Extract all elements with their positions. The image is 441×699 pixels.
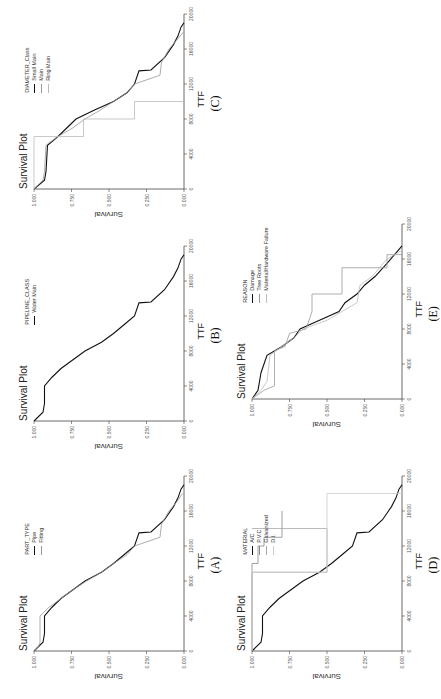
x-tick-label: 0 [188,419,194,422]
survival-plot-panel-a: 0400080001200016000200000.0000.2500.5000… [34,476,184,651]
legend-item: Galvanized [263,515,270,555]
x-tick-label: 12000 [188,77,194,91]
x-tick-label: 20000 [406,217,412,231]
panel-label: (E) [426,306,441,321]
survival-curve-tree-roots [252,255,402,399]
axes [34,476,184,651]
legend-item: Fitting [38,523,45,555]
legend-item: D.I. [270,515,277,555]
legend-item: Water Main [31,279,38,325]
legend-swatch [266,294,267,303]
panel-label: (B) [208,328,223,344]
survival-plot-panel-c: 0400080001200016000200000.0000.2500.5000… [34,14,184,189]
legend-item: A/C [249,515,256,555]
y-tick-label: 0.250 [362,404,368,417]
legend-title: PART_TYPE [24,523,31,555]
survival-curve-fitting [34,494,183,652]
x-tick-label: 0 [406,649,412,652]
legend-swatch [34,316,35,325]
panel-label: (A) [208,557,223,574]
legend-label: Small Main [31,54,38,81]
legend: PIPELINE_CLASSWater Main [24,279,38,325]
survival-plot-panel-b: 0400080001200016000200000.0000.2500.5000… [34,246,184,421]
legend-item: P.V.C [256,515,263,555]
legend-item: Ring Main [45,48,52,93]
x-tick-label: 20000 [188,469,194,483]
legend-swatch [41,546,42,555]
x-tick-label: 0 [188,649,194,652]
y-tick-label: 0.000 [181,426,187,439]
y-tick-label: 0.000 [399,404,405,417]
survival-curve-ring-main [34,102,184,190]
legend: REASONDamageTree RootsMaterial/Hardware … [242,227,270,302]
x-axis-label: TTF [196,553,206,570]
legend: PART_TYPEPipeFitting [24,523,45,555]
panel-label: (C) [208,96,223,112]
legend-label: D.I. [270,534,277,543]
legend-swatch [34,84,35,93]
legend-title: MATERIAL [242,515,249,555]
legend-swatch [252,294,253,303]
legend-swatch [41,84,42,93]
y-tick-label: 1.000 [31,426,37,439]
legend-swatch [259,546,260,555]
y-axis-label: Survival [313,420,341,429]
survival-curve-small-main [34,23,184,189]
y-tick-label: 0.750 [69,656,75,669]
axes [34,246,184,421]
legend-item: Tree Roots [256,227,263,302]
y-tick-label: 0.750 [69,426,75,439]
y-tick-label: 0.000 [181,656,187,669]
x-tick-label: 8000 [188,345,194,356]
y-tick-label: 0.750 [69,194,75,207]
panel-label: (D) [426,557,441,574]
x-tick-label: 12000 [188,309,194,323]
legend-title: PIPELINE_CLASS [24,279,31,325]
y-axis-label: Survival [95,210,123,219]
x-tick-label: 8000 [406,323,412,334]
survival-plot-panel-d: 0400080001200016000200000.0000.2500.5000… [252,476,402,651]
y-tick-label: 0.500 [106,426,112,439]
legend: DIAMETER_ClassSmall MainMainRing Main [24,48,52,93]
legend-label: Damage [249,270,256,291]
x-axis-label: TTF [414,301,424,318]
legend-swatch [34,546,35,555]
y-tick-label: 0.750 [287,404,293,417]
y-tick-label: 0.250 [144,194,150,207]
survival-plot-panel-e: 0400080001200016000200000.0000.2500.5000… [252,224,402,399]
legend-label: P.V.C [256,530,263,543]
x-tick-label: 8000 [188,113,194,124]
survival-curve-water-main [34,255,184,421]
y-tick-label: 0.250 [144,656,150,669]
legend-title: DIAMETER_Class [24,48,31,93]
x-tick-label: 12000 [406,287,412,301]
x-tick-label: 20000 [406,469,412,483]
x-tick-label: 0 [406,397,412,400]
y-tick-label: 1.000 [31,194,37,207]
legend-label: Pipe [31,532,38,543]
x-tick-label: 12000 [406,539,412,553]
plot-title: Survival Plot [236,343,247,399]
y-axis-label: Survival [95,672,123,681]
legend-label: Tree Roots [256,264,263,291]
y-tick-label: 0.750 [287,656,293,669]
x-tick-label: 20000 [188,7,194,21]
y-tick-label: 0.500 [106,194,112,207]
plot-area: 0400080001200016000200000.0000.2500.5000… [34,246,184,421]
y-tick-label: 0.500 [324,656,330,669]
x-axis-label: TTF [196,91,206,108]
y-tick-label: 0.250 [362,656,368,669]
plot-title: Survival Plot [18,365,29,421]
y-axis-label: Survival [95,442,123,451]
y-tick-label: 1.000 [249,656,255,669]
x-tick-label: 4000 [188,148,194,159]
legend-swatch [266,546,267,555]
plot-title: Survival Plot [18,595,29,651]
legend-item: Pipe [31,523,38,555]
y-tick-label: 0.500 [324,404,330,417]
legend-label: Material/Hardware Failure [263,227,270,290]
y-axis-label: Survival [313,672,341,681]
legend-label: A/C [249,534,256,543]
y-tick-label: 0.250 [144,426,150,439]
x-tick-label: 16000 [406,252,412,266]
